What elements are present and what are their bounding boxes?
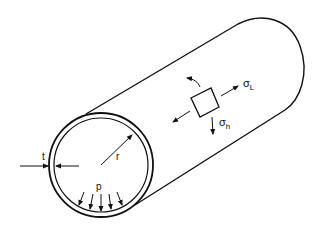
svg-text:σh: σh: [219, 116, 230, 131]
radius-label: r: [116, 151, 120, 162]
pressure-arrows: [79, 192, 122, 211]
cylinder-svg: t r p σL σh: [0, 0, 322, 235]
thin-cylinder-diagram: t r p σL σh: [0, 0, 322, 235]
svg-text:σL: σL: [243, 77, 255, 92]
pressure-label: p: [96, 181, 102, 192]
cylinder-body: [86, 18, 304, 205]
sigma-hoop-label: σh: [219, 116, 230, 131]
thickness-label: t: [42, 151, 45, 162]
sigma-longitudinal-label: σL: [243, 77, 255, 92]
